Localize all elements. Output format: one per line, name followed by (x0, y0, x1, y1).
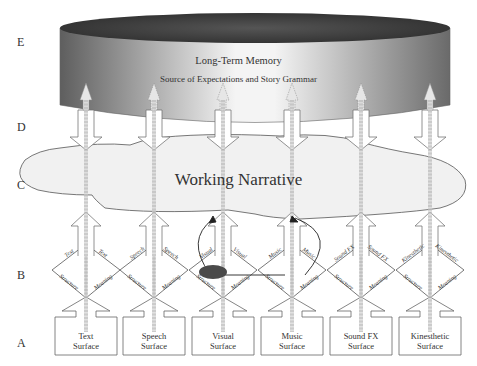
working-narrative-title: Working Narrative (0, 170, 477, 190)
surface-box-label: MusicSurface (261, 332, 323, 351)
row-label-d: D (17, 120, 26, 135)
modality-column (52, 83, 120, 355)
surface-word: Surface (192, 342, 254, 352)
surface-word: Surface (123, 342, 185, 352)
modality-column (189, 83, 257, 355)
surface-word: Surface (55, 342, 117, 352)
surface-box-label: TextSurface (55, 332, 117, 351)
modality-column (120, 83, 188, 355)
row-label-a: A (17, 336, 26, 351)
long-term-memory-cylinder (60, 13, 450, 123)
ltm-subtitle: Source of Expectations and Story Grammar (0, 74, 477, 84)
surface-word: Surface (330, 342, 392, 352)
modality-column (396, 83, 464, 355)
surface-word: Surface (399, 342, 461, 352)
row-label-b: B (17, 268, 25, 283)
surface-word: Surface (261, 342, 323, 352)
surface-box-label: Sound FXSurface (330, 332, 392, 351)
ltm-title: Long-Term Memory (0, 55, 477, 66)
surface-box-label: SpeechSurface (123, 332, 185, 351)
row-label-e: E (17, 35, 24, 50)
surface-box-label: VisualSurface (192, 332, 254, 351)
modality-column (327, 83, 395, 355)
surface-box-label: KinestheticSurface (399, 332, 461, 351)
